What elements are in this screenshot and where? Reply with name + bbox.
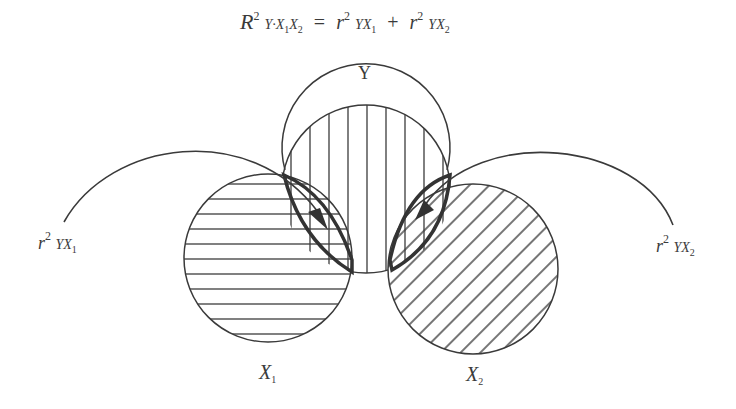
- formula-term2-subsub: 2: [445, 24, 450, 35]
- formula-lhs-sub-2: 2: [298, 24, 303, 35]
- annotation-right-r: r: [656, 236, 663, 256]
- annotation-r2-yx1: r2 YX1: [38, 230, 77, 255]
- annotation-r2-yx2: r2 YX2: [656, 233, 695, 258]
- formula-term1-sup: 2: [344, 9, 350, 23]
- annotation-left-subsub: 1: [72, 244, 77, 255]
- label-x1-letter: X: [259, 361, 271, 383]
- formula-lhs: R: [240, 9, 253, 34]
- label-x1-sub: 1: [271, 374, 276, 385]
- annotation-right-sup: 2: [663, 232, 669, 246]
- annotation-right-subsub: 2: [690, 247, 695, 258]
- formula-term1-sub: YX: [355, 17, 371, 32]
- formula-term2-sup: 2: [417, 9, 423, 23]
- venn-diagram: [0, 0, 736, 409]
- formula-equals: =: [314, 11, 325, 33]
- formula-plus: +: [387, 11, 398, 33]
- annotation-left-r: r: [38, 233, 45, 253]
- formula-lhs-sub: Y·X: [264, 17, 284, 32]
- annotation-left-sup: 2: [45, 229, 51, 243]
- formula-term1-subsub: 1: [371, 24, 376, 35]
- annotation-left-sub: YX: [56, 237, 72, 252]
- formula: R2 Y·X1X2 = r2 YX1 + r2 YX2: [240, 10, 450, 35]
- formula-lhs-sub-mid: X: [289, 17, 298, 32]
- formula-term1: r: [336, 11, 344, 33]
- annotation-right-sub: YX: [674, 240, 690, 255]
- label-x1: X1: [259, 362, 276, 385]
- label-y: Y: [358, 64, 371, 82]
- label-x2: X2: [466, 364, 483, 387]
- label-x2-letter: X: [466, 363, 478, 385]
- formula-lhs-sup: 2: [253, 9, 259, 23]
- label-x2-sub: 2: [478, 376, 483, 387]
- formula-term2-sub: YX: [428, 17, 444, 32]
